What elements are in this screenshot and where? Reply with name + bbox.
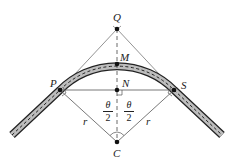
angle-arc-right (117, 132, 124, 136)
point-N (115, 88, 120, 93)
point-Q (115, 27, 120, 32)
point-C (115, 140, 120, 145)
angle-label-right: θ 2 (124, 100, 134, 123)
point-S (172, 88, 177, 93)
label-N: N (122, 78, 129, 89)
label-C: C (113, 148, 120, 159)
angle-left-denominator: 2 (103, 113, 113, 123)
label-Q: Q (113, 12, 121, 23)
label-radius-left: r (83, 116, 87, 127)
point-M (115, 62, 120, 67)
label-S: S (181, 80, 187, 91)
angle-label-left: θ 2 (103, 100, 113, 123)
label-M: M (120, 52, 129, 63)
angle-right-denominator: 2 (124, 113, 134, 123)
angle-arc-left (110, 132, 117, 136)
label-radius-right: r (146, 116, 150, 127)
label-P: P (50, 78, 57, 89)
point-P (58, 88, 63, 93)
angle-right-numerator: θ (124, 100, 134, 110)
geometry-figure (0, 0, 242, 162)
diagram-canvas: Q M N P S C r r θ 2 θ 2 (0, 0, 242, 162)
angle-left-numerator: θ (103, 100, 113, 110)
